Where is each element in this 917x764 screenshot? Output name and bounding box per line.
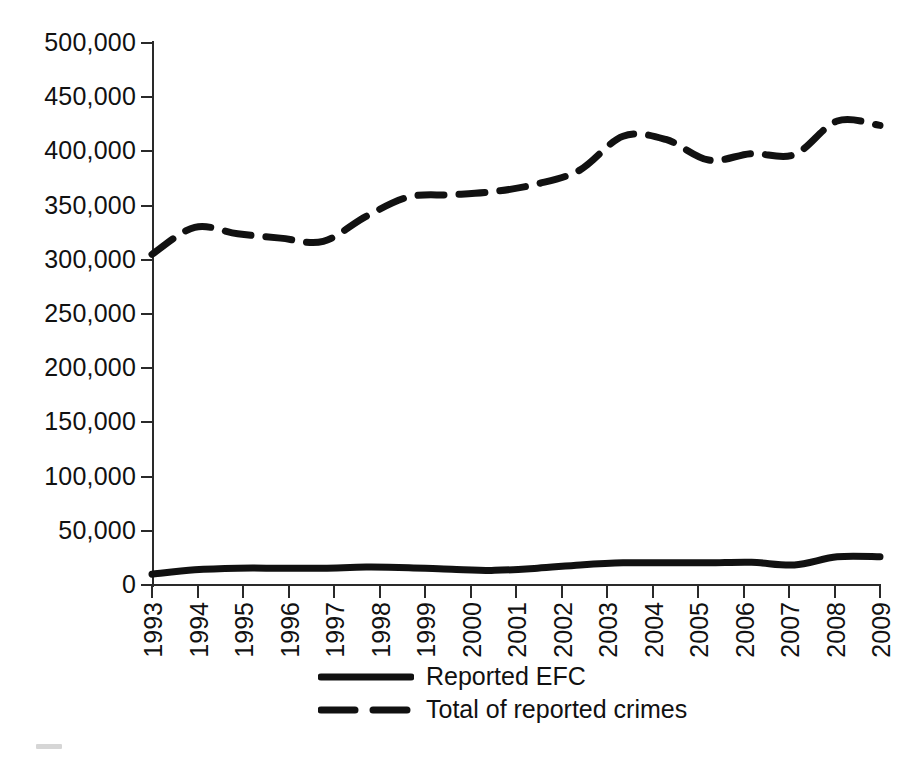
x-tick-1996 bbox=[288, 586, 290, 598]
y-tick-label-450000: 450,000 bbox=[4, 84, 136, 109]
x-tick-label-2009: 2009 bbox=[868, 602, 894, 658]
y-tick-label-150000: 150,000 bbox=[4, 409, 136, 434]
x-tick-2007 bbox=[788, 586, 790, 598]
y-tick-label-0: 0 bbox=[4, 572, 136, 597]
x-tick-label-1998: 1998 bbox=[368, 602, 394, 658]
x-tick-1995 bbox=[242, 586, 244, 598]
x-tick-label-2007: 2007 bbox=[777, 602, 803, 658]
y-tick-350000 bbox=[141, 205, 152, 207]
y-tick-250000 bbox=[141, 313, 152, 315]
y-tick-label-350000: 350,000 bbox=[4, 193, 136, 218]
x-tick-1994 bbox=[197, 586, 199, 598]
x-tick-1993 bbox=[151, 586, 153, 598]
x-tick-2000 bbox=[470, 586, 472, 598]
line-chart-figure: 050,000100,000150,000200,000250,000300,0… bbox=[0, 0, 917, 764]
y-tick-label-100000: 100,000 bbox=[4, 464, 136, 489]
series-line-reported-efc bbox=[152, 556, 880, 574]
x-tick-2005 bbox=[697, 586, 699, 598]
x-tick-label-2000: 2000 bbox=[459, 602, 485, 658]
y-tick-label-250000: 250,000 bbox=[4, 301, 136, 326]
x-tick-label-1996: 1996 bbox=[277, 602, 303, 658]
x-tick-label-2001: 2001 bbox=[504, 602, 530, 658]
legend-swatch-solid-line-icon bbox=[318, 667, 414, 687]
legend-item-reported-efc: Reported EFC bbox=[318, 660, 748, 693]
x-tick-2004 bbox=[652, 586, 654, 598]
x-tick-label-2003: 2003 bbox=[595, 602, 621, 658]
y-tick-label-50000: 50,000 bbox=[4, 518, 136, 543]
x-tick-2003 bbox=[606, 586, 608, 598]
x-tick-label-2006: 2006 bbox=[732, 602, 758, 658]
y-tick-200000 bbox=[141, 367, 152, 369]
x-tick-2009 bbox=[879, 586, 881, 598]
x-tick-1999 bbox=[424, 586, 426, 598]
y-axis-line bbox=[152, 41, 154, 587]
y-tick-label-200000: 200,000 bbox=[4, 355, 136, 380]
y-tick-label-400000: 400,000 bbox=[4, 138, 136, 163]
x-tick-2008 bbox=[834, 586, 836, 598]
x-tick-label-1994: 1994 bbox=[186, 602, 212, 658]
x-tick-label-2005: 2005 bbox=[686, 602, 712, 658]
x-tick-2001 bbox=[515, 586, 517, 598]
x-tick-label-1997: 1997 bbox=[322, 602, 348, 658]
x-tick-label-1993: 1993 bbox=[140, 602, 166, 658]
y-tick-label-300000: 300,000 bbox=[4, 247, 136, 272]
legend-item-total-of-reported-crimes: Total of reported crimes bbox=[318, 693, 748, 726]
y-tick-300000 bbox=[141, 259, 152, 261]
x-tick-label-2002: 2002 bbox=[550, 602, 576, 658]
y-tick-label-500000: 500,000 bbox=[4, 30, 136, 55]
x-tick-label-2004: 2004 bbox=[641, 602, 667, 658]
y-tick-100000 bbox=[141, 476, 152, 478]
y-tick-50000 bbox=[141, 530, 152, 532]
legend-label-total-of-reported-crimes: Total of reported crimes bbox=[426, 696, 687, 723]
x-tick-label-1999: 1999 bbox=[413, 602, 439, 658]
y-tick-400000 bbox=[141, 150, 152, 152]
x-tick-label-2008: 2008 bbox=[823, 602, 849, 658]
legend-swatch-dashed-line-icon bbox=[318, 700, 414, 720]
x-tick-1998 bbox=[379, 586, 381, 598]
chart-legend: Reported EFC Total of reported crimes bbox=[318, 660, 748, 726]
x-tick-label-1995: 1995 bbox=[231, 602, 257, 658]
page-scan-artifact bbox=[36, 744, 62, 749]
x-tick-2006 bbox=[743, 586, 745, 598]
series-line-total-of-reported-crimes bbox=[152, 120, 880, 255]
x-tick-2002 bbox=[561, 586, 563, 598]
x-tick-1997 bbox=[333, 586, 335, 598]
y-tick-500000 bbox=[141, 42, 152, 44]
legend-label-reported-efc: Reported EFC bbox=[426, 663, 586, 690]
y-tick-450000 bbox=[141, 96, 152, 98]
y-tick-150000 bbox=[141, 421, 152, 423]
